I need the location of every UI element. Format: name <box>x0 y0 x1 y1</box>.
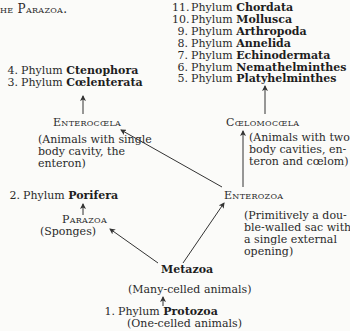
arrow-metazoa-to-enterozoa <box>183 203 224 263</box>
arrow-metazoa-to-parazoa <box>110 229 158 263</box>
arrow-enterozoa-to-enterocoela <box>121 130 222 187</box>
arrows-layer <box>0 0 350 331</box>
